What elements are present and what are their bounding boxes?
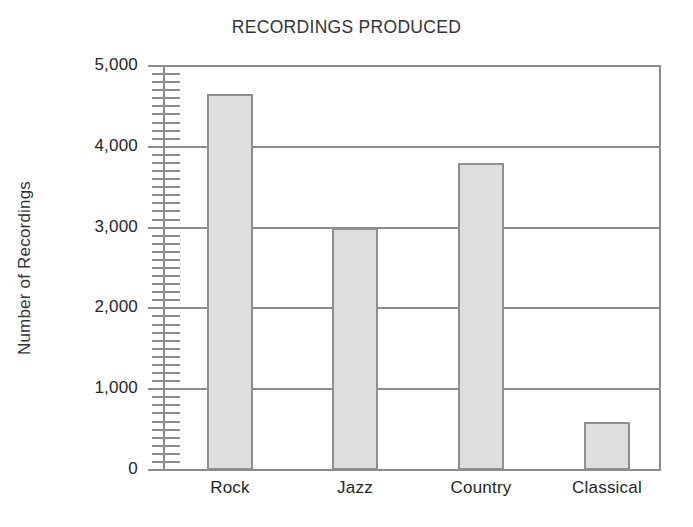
y-axis-minor-tick (152, 194, 180, 196)
y-axis-minor-tick (152, 453, 180, 455)
chart-title: RECORDINGS PRODUCED (0, 17, 693, 38)
y-axis-minor-tick (152, 299, 180, 301)
y-axis-minor-tick (152, 445, 180, 447)
y-axis-tick-label: 2,000 (52, 297, 138, 317)
y-axis-title-container: Number of Recordings (8, 66, 42, 470)
gridline (148, 65, 661, 67)
y-axis-minor-tick (152, 89, 180, 91)
y-axis-title: Number of Recordings (15, 181, 35, 355)
bar-country (458, 163, 504, 470)
y-axis-spine (163, 66, 165, 470)
y-axis-minor-tick (152, 186, 180, 188)
x-axis-tick-label: Country (421, 478, 541, 498)
y-axis-minor-tick (152, 283, 180, 285)
y-axis-minor-tick (152, 404, 180, 406)
bar-rock (207, 94, 253, 470)
bar-classical (584, 422, 630, 470)
y-axis-minor-tick (152, 291, 180, 293)
y-axis-minor-tick (152, 372, 180, 374)
y-axis-major-tick (148, 227, 184, 229)
y-axis-minor-tick (152, 219, 180, 221)
y-axis-minor-tick (152, 81, 180, 83)
y-axis-minor-tick (152, 429, 180, 431)
y-axis-minor-tick (152, 364, 180, 366)
y-axis-minor-tick (152, 210, 180, 212)
y-axis-minor-tick (152, 412, 180, 414)
y-axis-major-tick (148, 146, 184, 148)
y-axis-minor-tick (152, 243, 180, 245)
y-axis-minor-tick (152, 437, 180, 439)
y-axis-minor-tick (152, 122, 180, 124)
y-axis-minor-tick (152, 324, 180, 326)
y-axis-minor-tick (152, 202, 180, 204)
y-axis-tick-label: 3,000 (52, 217, 138, 237)
x-axis-tick-label: Classical (547, 478, 667, 498)
y-axis-minor-tick (152, 356, 180, 358)
y-axis-minor-tick (152, 340, 180, 342)
y-axis-minor-tick (152, 113, 180, 115)
x-axis-tick-label: Rock (170, 478, 290, 498)
y-axis-minor-tick (152, 138, 180, 140)
y-axis-minor-tick (152, 73, 180, 75)
y-axis-minor-tick (152, 332, 180, 334)
y-axis-minor-tick (152, 251, 180, 253)
plot-right-border (659, 66, 661, 470)
y-axis-minor-tick (152, 461, 180, 463)
y-axis-major-tick (148, 388, 184, 390)
y-axis-minor-tick (152, 315, 180, 317)
x-axis-tick-label: Jazz (295, 478, 415, 498)
y-axis-minor-tick (152, 162, 180, 164)
plot-area (148, 66, 661, 470)
y-axis-major-tick (148, 307, 184, 309)
y-axis-minor-tick (152, 178, 180, 180)
y-axis-major-tick (148, 65, 184, 67)
y-axis-major-tick (148, 469, 184, 471)
y-axis-minor-tick (152, 267, 180, 269)
y-axis-minor-tick (152, 348, 180, 350)
y-axis-minor-tick (152, 421, 180, 423)
y-axis-minor-tick (152, 259, 180, 261)
y-axis-tick-label: 1,000 (52, 378, 138, 398)
y-axis-tick-label: 5,000 (52, 55, 138, 75)
y-axis-minor-tick (152, 130, 180, 132)
y-axis-minor-tick (152, 170, 180, 172)
y-axis-minor-tick (152, 396, 180, 398)
y-axis-tick-label: 0 (52, 459, 138, 479)
y-axis-minor-tick (152, 235, 180, 237)
y-axis-minor-tick (152, 154, 180, 156)
bar-jazz (332, 228, 378, 470)
y-axis-tick-label: 4,000 (52, 136, 138, 156)
y-axis-minor-tick (152, 105, 180, 107)
y-axis-minor-tick (152, 97, 180, 99)
y-axis-minor-tick (152, 380, 180, 382)
y-axis-minor-tick (152, 275, 180, 277)
bar-chart: RECORDINGS PRODUCED Number of Recordings… (0, 0, 693, 527)
